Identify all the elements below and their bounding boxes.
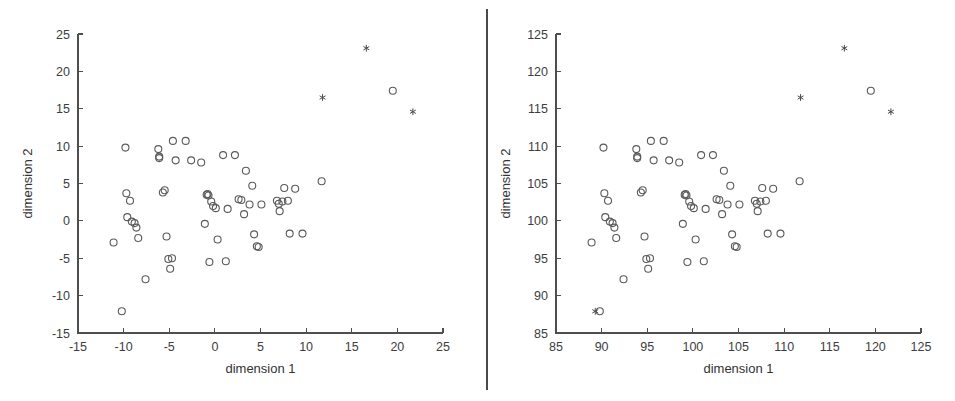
data-point-circle <box>709 152 716 159</box>
data-point-circle <box>135 235 142 242</box>
y-axis-title: dimension 2 <box>20 148 35 218</box>
x-tick-label: 25 <box>436 340 450 354</box>
scatter-plot-figure: -15-10-50510152025-15-10-50510152025dime… <box>0 0 955 401</box>
data-point-circle <box>602 214 609 221</box>
left-scatter-panel: -15-10-50510152025-15-10-50510152025dime… <box>0 0 478 401</box>
data-point-circle <box>276 208 283 215</box>
data-point-circle <box>600 144 607 151</box>
x-tick-label: 100 <box>682 340 703 354</box>
data-point-circle <box>867 87 874 94</box>
x-tick-label: 115 <box>820 340 840 354</box>
data-point-circle <box>222 258 229 265</box>
data-point-circle <box>242 167 249 174</box>
data-point-circle <box>163 233 170 240</box>
series-inliers <box>588 87 874 315</box>
y-tick-label: 125 <box>527 28 548 42</box>
data-point-circle <box>124 214 131 221</box>
data-point-circle <box>720 167 727 174</box>
data-point-circle <box>110 239 117 246</box>
data-point-circle <box>318 178 325 185</box>
data-point-star <box>320 94 326 101</box>
data-point-circle <box>596 308 603 315</box>
data-point-circle <box>719 211 726 218</box>
data-point-star <box>888 108 894 115</box>
data-point-circle <box>201 220 208 227</box>
x-tick-label: 90 <box>595 340 609 354</box>
x-tick-label: -10 <box>115 340 133 354</box>
x-tick-label: 125 <box>911 340 932 354</box>
y-tick-label: 10 <box>56 140 70 154</box>
x-tick-label: 85 <box>549 340 563 354</box>
data-point-circle <box>142 276 149 283</box>
x-tick-label: 15 <box>345 340 359 354</box>
y-axis-title: dimension 2 <box>498 148 513 218</box>
data-point-star <box>841 45 847 52</box>
data-point-circle <box>122 144 129 151</box>
data-point-circle <box>224 205 231 212</box>
series-outliers <box>320 45 416 115</box>
data-point-circle <box>647 137 654 144</box>
y-tick-label: 25 <box>56 28 70 42</box>
x-axis-title: dimension 1 <box>703 361 773 376</box>
series-inliers <box>110 87 396 315</box>
x-axis-title: dimension 1 <box>225 361 295 376</box>
data-point-circle <box>727 182 734 189</box>
y-tick-label: 120 <box>527 65 548 79</box>
data-point-circle <box>754 208 761 215</box>
data-point-circle <box>161 187 168 194</box>
data-point-circle <box>155 146 162 153</box>
x-tick-label: 120 <box>865 340 886 354</box>
axis-spine <box>78 34 443 333</box>
data-point-circle <box>118 308 125 315</box>
data-point-circle <box>777 230 784 237</box>
data-point-circle <box>198 159 205 166</box>
data-point-circle <box>159 189 166 196</box>
y-tick-label: 85 <box>534 327 548 341</box>
data-point-circle <box>666 157 673 164</box>
data-point-circle <box>770 185 777 192</box>
data-point-circle <box>389 87 396 94</box>
y-tick-label: 20 <box>56 65 70 79</box>
data-point-circle <box>724 201 731 208</box>
data-point-circle <box>231 152 238 159</box>
data-point-circle <box>188 157 195 164</box>
data-point-circle <box>684 258 691 265</box>
data-point-circle <box>698 152 705 159</box>
x-tick-label: -15 <box>69 340 87 354</box>
data-point-circle <box>167 265 174 272</box>
right-scatter-panel: 8590951001051101151201258590951001051101… <box>478 0 955 401</box>
data-point-circle <box>281 184 288 191</box>
data-point-circle <box>645 265 652 272</box>
data-point-circle <box>660 137 667 144</box>
data-point-circle <box>251 231 258 238</box>
data-point-circle <box>736 201 743 208</box>
data-point-circle <box>676 159 683 166</box>
data-point-circle <box>123 190 130 197</box>
y-tick-label: -15 <box>52 327 70 341</box>
y-tick-label: 90 <box>534 289 548 303</box>
data-point-circle <box>588 239 595 246</box>
data-point-circle <box>249 182 256 189</box>
data-point-circle <box>127 197 134 204</box>
y-tick-label: 95 <box>534 252 548 266</box>
data-point-circle <box>650 157 657 164</box>
data-point-circle <box>258 201 265 208</box>
data-point-circle <box>133 224 140 231</box>
y-tick-label: -5 <box>59 252 70 266</box>
data-point-circle <box>679 220 686 227</box>
data-point-circle <box>214 236 221 243</box>
right-plot-canvas: 8590951001051101151201258590951001051101… <box>478 0 955 401</box>
data-point-star <box>410 108 416 115</box>
y-tick-label: 100 <box>527 214 548 228</box>
data-point-star <box>363 45 369 52</box>
data-point-circle <box>246 201 253 208</box>
data-point-circle <box>637 189 644 196</box>
data-point-circle <box>764 230 771 237</box>
data-point-circle <box>182 137 189 144</box>
data-point-star <box>798 94 804 101</box>
series-outliers <box>592 45 894 315</box>
data-point-circle <box>796 178 803 185</box>
x-tick-label: 105 <box>728 340 749 354</box>
data-point-circle <box>633 146 640 153</box>
data-point-circle <box>692 236 699 243</box>
